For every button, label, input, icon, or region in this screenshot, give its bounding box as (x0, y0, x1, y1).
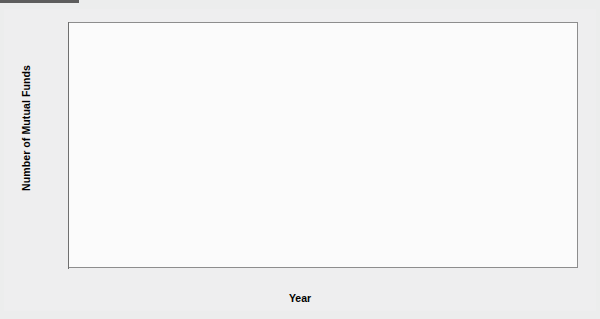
y-axis-tick-labels (8, 0, 60, 319)
y-axis-title: Number of Mutual Funds (20, 38, 32, 218)
bars-container (69, 23, 577, 267)
plot-area (68, 22, 578, 268)
y-axis-line (68, 22, 69, 269)
chart-figure: Number of Mutual Funds Year (0, 0, 600, 319)
x-axis-title: Year (0, 292, 600, 304)
